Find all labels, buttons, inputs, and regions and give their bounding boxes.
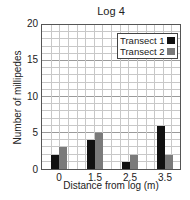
gridline-vertical [51,25,52,169]
bar-transect-2-3.5 [165,155,173,169]
gridline-vertical [111,25,112,169]
bar-transect-1-2.5 [122,162,130,169]
gridline-vertical [68,25,69,169]
y-tick-20: 20 [18,18,38,29]
bar-transect-1-0 [51,155,59,169]
legend-swatch-transect-1 [167,37,175,44]
gridline-vertical [77,25,78,169]
y-tick-5: 5 [18,127,38,138]
legend-item-transect-2: Transect 2 [120,46,175,57]
legend-item-transect-1: Transect 1 [120,35,175,46]
bar-transect-1-1.5 [87,140,95,169]
legend-swatch-transect-2 [167,48,175,55]
bar-transect-2-2.5 [130,155,138,169]
x-axis-label: Distance from log (m) [41,180,181,191]
gridline-vertical [85,25,86,169]
legend: Transect 1 Transect 2 [117,33,178,59]
bar-transect-2-0 [59,147,67,169]
bar-transect-1-3.5 [157,126,165,169]
chart-title: Log 4 [41,5,181,17]
y-tick-15: 15 [18,54,38,65]
y-tick-10: 10 [18,91,38,102]
bar-transect-2-1.5 [95,133,103,169]
y-tick-0: 0 [18,164,38,175]
